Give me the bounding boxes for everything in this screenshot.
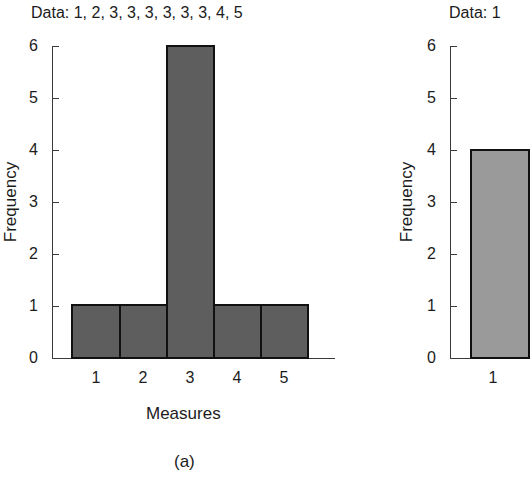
chart-b-ytick-mark-4 <box>450 150 457 151</box>
chart-a-xtick-2: 2 <box>133 369 153 387</box>
chart-b-title: Data: 1 <box>449 4 501 22</box>
chart-b-ytick-5: 5 <box>416 89 436 107</box>
chart-a-caption: (a) <box>174 452 195 472</box>
chart-a-ytick-mark-3 <box>52 202 59 203</box>
chart-a-xlabel: Measures <box>146 404 221 424</box>
chart-a-ytick-1: 1 <box>18 297 38 315</box>
chart-a-ytick-mark-6 <box>52 46 59 47</box>
chart-b-ytick-1: 1 <box>416 297 436 315</box>
chart-a-ytick-5: 5 <box>18 89 38 107</box>
chart-b-bar-1 <box>470 149 530 359</box>
chart-a-ytick-3: 3 <box>18 193 38 211</box>
chart-b-ylabel: Frequency <box>397 142 417 262</box>
chart-a-ytick-mark-1 <box>52 306 59 307</box>
chart-a-xtick-3: 3 <box>180 369 200 387</box>
chart-a-xtick-5: 5 <box>274 369 294 387</box>
chart-a-ytick-6: 6 <box>18 37 38 55</box>
chart-a-bar-2 <box>119 304 169 359</box>
chart-b-ytick-2: 2 <box>416 245 436 263</box>
chart-a-bar-4 <box>213 304 263 359</box>
chart-b-ytick-4: 4 <box>416 141 436 159</box>
chart-b-ytick-mark-1 <box>450 306 457 307</box>
chart-b-ytick-mark-3 <box>450 202 457 203</box>
chart-a-ytick-4: 4 <box>18 141 38 159</box>
chart-a-ytick-mark-2 <box>52 254 59 255</box>
chart-a-bar-1 <box>71 304 121 359</box>
chart-b-ytick-mark-6 <box>450 46 457 47</box>
chart-a-title: Data: 1, 2, 3, 3, 3, 3, 3, 3, 4, 5 <box>31 4 243 22</box>
chart-b-ytick-mark-2 <box>450 254 457 255</box>
chart-a-ytick-2: 2 <box>18 245 38 263</box>
chart-a-bar-3 <box>166 45 215 359</box>
chart-a-ytick-mark-4 <box>52 150 59 151</box>
chart-a-xtick-1: 1 <box>86 369 106 387</box>
chart-a-ytick-mark-5 <box>52 98 59 99</box>
chart-b-ytick-mark-5 <box>450 98 457 99</box>
chart-b-xtick-1: 1 <box>483 369 503 387</box>
chart-b-ytick-6: 6 <box>416 37 436 55</box>
chart-b-ytick-3: 3 <box>416 193 436 211</box>
chart-a-bar-5 <box>260 304 309 359</box>
chart-a-xtick-4: 4 <box>227 369 247 387</box>
chart-a-ytick-0: 0 <box>18 349 38 367</box>
chart-b-ytick-0: 0 <box>416 349 436 367</box>
